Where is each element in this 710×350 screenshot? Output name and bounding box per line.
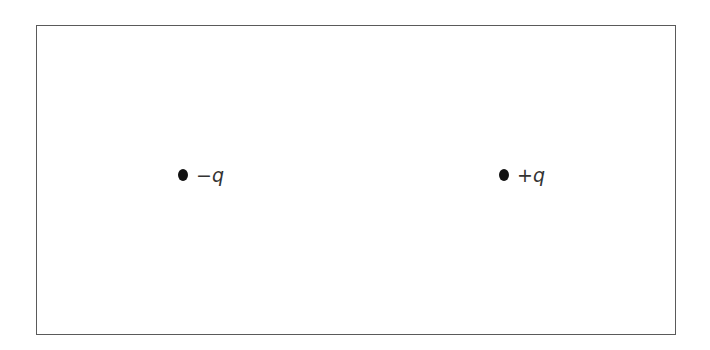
- negative-charge: −q: [178, 165, 224, 185]
- charge-dot-icon: [178, 169, 188, 181]
- charge-symbol: q: [533, 164, 545, 186]
- positive-charge: +q: [499, 165, 545, 185]
- charge-sign: +: [517, 164, 533, 186]
- charge-sign: −: [196, 164, 212, 186]
- charge-label: −q: [196, 165, 224, 185]
- charge-dot-icon: [499, 169, 509, 181]
- charge-symbol: q: [212, 164, 224, 186]
- diagram-frame: −q +q: [36, 25, 676, 335]
- charge-label: +q: [517, 165, 545, 185]
